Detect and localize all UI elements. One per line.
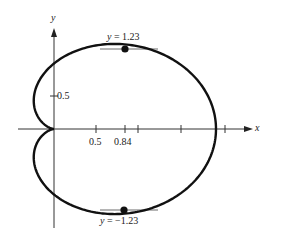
x-tick-label-05: 0.5 [89, 137, 102, 147]
cardioid-plot [0, 0, 283, 243]
bottom-point [120, 206, 127, 213]
x-tick-label-084: 0.84 [114, 137, 132, 147]
y-tick-label-05: 0.5 [57, 91, 70, 101]
x-axis-arrow-icon [244, 126, 253, 132]
top-annotation: y = 1.23 [107, 32, 140, 42]
y-axis-arrow-icon [51, 28, 57, 37]
bottom-annotation: y = −1.23 [100, 216, 138, 226]
y-axis-label: y [51, 13, 55, 23]
top-point [121, 45, 128, 52]
x-axis-label: x [255, 123, 259, 133]
